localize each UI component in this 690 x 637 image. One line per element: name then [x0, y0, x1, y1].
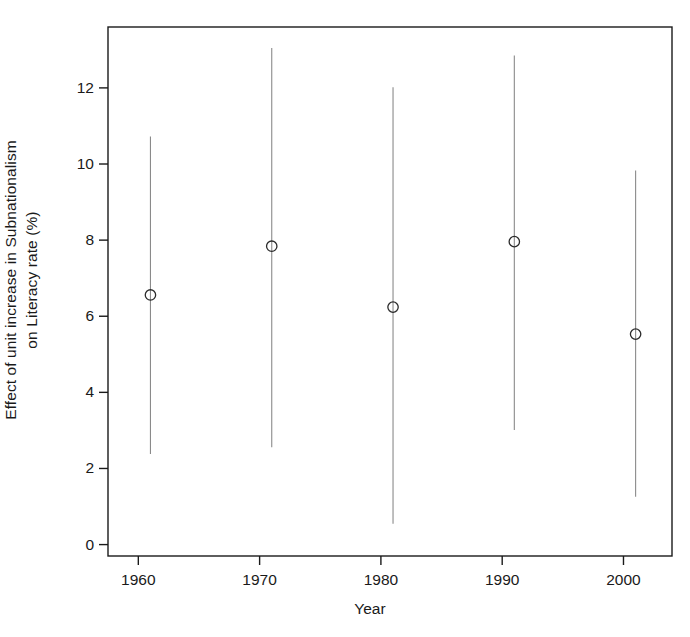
y-axis-title-line1: Effect of unit increase in Subnationalis… — [0, 30, 22, 530]
data-point-1961 — [145, 137, 155, 454]
data-point-1991 — [509, 56, 519, 430]
data-series — [145, 48, 641, 524]
x-tick-label-1970: 1970 — [225, 572, 295, 588]
x-axis-title-text: Year — [354, 600, 385, 617]
axis-ticks — [99, 88, 623, 565]
plot-area — [0, 0, 690, 637]
y-tick-label-0: 0 — [58, 537, 94, 553]
data-point-2001 — [630, 170, 640, 496]
data-point-1981 — [388, 87, 398, 524]
y-tick-label-6: 6 — [58, 308, 94, 324]
y-tick-label-8: 8 — [58, 232, 94, 248]
x-tick-label-2000: 2000 — [588, 572, 658, 588]
x-axis-title: Year — [0, 600, 690, 618]
x-tick-label-1960: 1960 — [103, 572, 173, 588]
x-tick-label-1990: 1990 — [467, 572, 537, 588]
data-point-1971 — [267, 48, 277, 447]
y-tick-label-4: 4 — [58, 384, 94, 400]
y-axis-title-line2: on Literacy rate (%) — [21, 30, 43, 530]
chart-figure: Effect of unit increase in Subnationalis… — [0, 0, 690, 637]
y-tick-label-2: 2 — [58, 460, 94, 476]
x-tick-label-1980: 1980 — [346, 572, 416, 588]
axes-frame — [108, 27, 672, 556]
y-tick-label-12: 12 — [58, 80, 94, 96]
plot-frame — [108, 27, 672, 556]
y-tick-label-10: 10 — [58, 156, 94, 172]
